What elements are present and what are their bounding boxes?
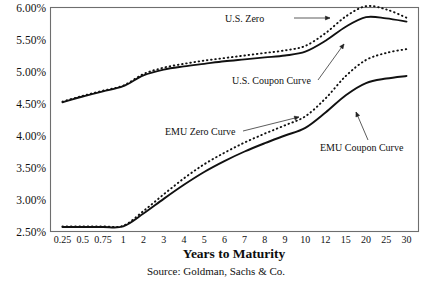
x-axis-tick-label: 2 [141, 234, 146, 245]
x-axis-tick-label: 10 [300, 234, 310, 245]
y-axis-tick-label: 5.00% [16, 66, 46, 78]
y-axis-tick-label: 4.50% [16, 98, 46, 110]
chart-canvas: 2.50%3.00%3.50%4.00%4.50%5.00%5.50%6.00%… [0, 0, 432, 282]
x-axis-tick-label: 5 [202, 234, 207, 245]
x-axis-tick-label: 9 [283, 234, 288, 245]
x-axis-tick-label: 30 [402, 234, 412, 245]
series-annotation-label: EMU Coupon Curve [320, 142, 404, 153]
y-axis-tick-label: 3.00% [16, 194, 46, 206]
x-axis-tick-label: 25 [381, 234, 391, 245]
x-axis-tick-label: 0.25 [54, 234, 72, 245]
x-axis-tick-label: 8 [262, 234, 267, 245]
y-axis-tick-label: 2.50% [16, 226, 46, 238]
x-axis-tick-label: 7 [242, 234, 247, 245]
y-axis-tick-label: 3.50% [16, 162, 46, 174]
source-caption: Source: Goldman, Sachs & Co. [147, 265, 285, 277]
x-axis-tick-label: 15 [341, 234, 351, 245]
yield-curve-chart: 2.50%3.00%3.50%4.00%4.50%5.00%5.50%6.00%… [0, 0, 432, 282]
y-axis-tick-label: 5.50% [16, 34, 46, 46]
x-axis-tick-label: 0.75 [94, 234, 112, 245]
x-axis-title: Years to Maturity [183, 246, 286, 261]
x-axis-tick-label: 3 [161, 234, 166, 245]
series-annotation-label: U.S. Zero [225, 13, 264, 24]
x-axis-tick-label: 1 [121, 234, 126, 245]
x-axis-tick-label: 6 [222, 234, 227, 245]
series-annotation-label: EMU Zero Curve [165, 126, 236, 137]
y-axis-tick-label: 4.00% [16, 130, 46, 142]
series-annotation-label: U.S. Coupon Curve [232, 75, 311, 86]
x-axis-tick-label: 20 [361, 234, 371, 245]
x-axis-tick-label: 0.5 [76, 234, 89, 245]
x-axis-tick-label: 12 [321, 234, 331, 245]
x-axis-tick-label: 4 [181, 234, 186, 245]
y-axis-tick-label: 6.00% [16, 2, 46, 14]
